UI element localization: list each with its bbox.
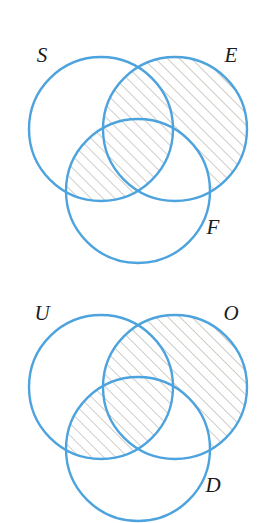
venn-diagram-2: U O D bbox=[0, 258, 271, 503]
set-label-bottom: F bbox=[206, 215, 220, 239]
venn-diagram-1: S E F bbox=[0, 0, 271, 265]
set-label-right: O bbox=[223, 301, 238, 325]
set-label-left: U bbox=[34, 301, 51, 325]
venn-diagram-1-canvas: S E F bbox=[0, 0, 271, 265]
set-label-left: S bbox=[37, 43, 48, 67]
set-label-bottom: D bbox=[204, 473, 220, 497]
set-label-right: E bbox=[224, 43, 238, 67]
venn-diagram-2-canvas: U O D bbox=[0, 258, 271, 523]
